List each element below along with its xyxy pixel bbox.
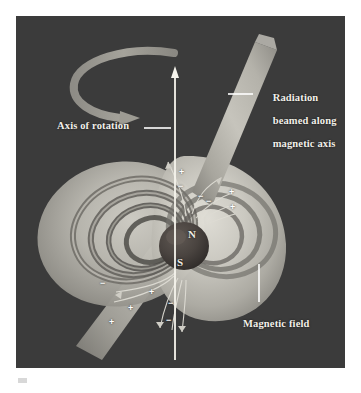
- negative-charge-symbol: −: [178, 182, 183, 191]
- negative-charge-symbol: −: [166, 316, 171, 325]
- label-radiation-line-2: beamed along: [273, 115, 337, 126]
- label-radiation-beamed-along-magnetic-axis: Radiation beamed along magnetic axis: [256, 80, 337, 161]
- positive-charge-symbol: +: [179, 168, 184, 177]
- negative-charge-symbol: −: [198, 192, 203, 201]
- figure-root: Radiation beamed along magnetic axis Axi…: [0, 0, 361, 393]
- positive-charge-symbol: +: [229, 188, 234, 197]
- negative-charge-symbol: −: [168, 299, 173, 308]
- label-magnetic-field: Magnetic field: [243, 318, 310, 330]
- label-radiation-line-3: magnetic axis: [273, 138, 336, 149]
- negative-charge-symbol: −: [100, 279, 105, 288]
- positive-charge-symbol: +: [230, 203, 235, 212]
- caption-mark: [18, 378, 27, 383]
- negative-charge-symbol: −: [206, 197, 211, 206]
- south-pole-label: S: [177, 256, 183, 268]
- label-radiation-line-1: Radiation: [273, 92, 319, 103]
- positive-charge-symbol: +: [149, 288, 154, 297]
- positive-charge-symbol: +: [109, 318, 114, 327]
- neutron-star-sphere: [159, 222, 209, 270]
- figure-panel: Radiation beamed along magnetic axis Axi…: [16, 16, 345, 368]
- magnetosphere-lobes: [24, 146, 286, 322]
- north-pole-label: N: [188, 228, 196, 240]
- positive-charge-symbol: +: [128, 304, 133, 313]
- rotation-arrow: [74, 51, 174, 126]
- label-axis-of-rotation: Axis of rotation: [57, 120, 129, 132]
- pulsar-diagram-illustration: [16, 16, 345, 368]
